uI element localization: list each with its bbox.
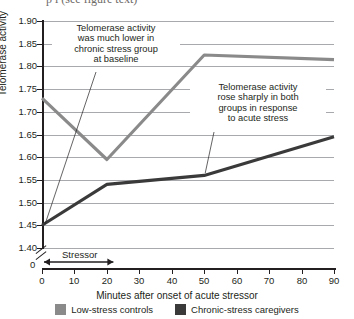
annotation-acute-stress: Telomerase activity rose sharply in both… bbox=[190, 82, 326, 124]
chart-figure: p l (see figure text) Telomerase activit… bbox=[0, 0, 354, 319]
legend-item-chronic-stress: Chronic-stress caregivers bbox=[175, 304, 299, 315]
stressor-bracket-label: Stressor bbox=[62, 249, 97, 260]
legend-swatch-chronic-stress bbox=[175, 304, 186, 315]
annotation-baseline: Telomerase activity was much lower in ch… bbox=[52, 23, 180, 65]
legend-label-low-stress: Low-stress controls bbox=[71, 304, 153, 315]
annotation-leader-baseline bbox=[45, 72, 96, 224]
legend-item-low-stress: Low-stress controls bbox=[55, 304, 153, 315]
annotation-leader-acute-stress bbox=[205, 132, 214, 173]
legend-swatch-low-stress bbox=[55, 304, 66, 315]
x-axis-title: Minutes after onset of acute stressor bbox=[0, 290, 354, 301]
chart-legend: Low-stress controls Chronic-stress careg… bbox=[0, 301, 354, 317]
legend-label-chronic-stress: Chronic-stress caregivers bbox=[191, 304, 299, 315]
series-line-chronic-stress bbox=[42, 137, 334, 226]
